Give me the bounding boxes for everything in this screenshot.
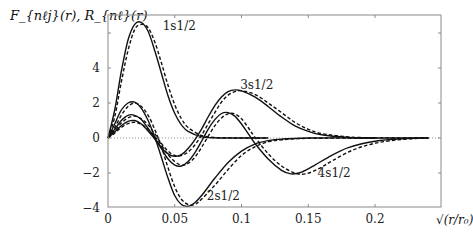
y-tick-label: 4 bbox=[92, 61, 100, 75]
curve-label: 4s1/2 bbox=[318, 166, 351, 180]
line-chart: 00.050.10.150.2−4−2024 1s1/23s1/22s1/24s… bbox=[0, 0, 473, 241]
x-axis-label: √(r/r₀) bbox=[436, 213, 473, 227]
series-4s1-2-dashed bbox=[108, 113, 428, 174]
curves bbox=[108, 22, 428, 207]
x-tick-label: 0.2 bbox=[365, 212, 384, 226]
curve-label: 3s1/2 bbox=[240, 78, 273, 92]
y-tick-label: −4 bbox=[82, 201, 100, 215]
y-tick-label: 0 bbox=[92, 131, 100, 145]
curve-label: 2s1/2 bbox=[207, 189, 240, 203]
x-tick-label: 0.1 bbox=[232, 212, 251, 226]
y-tick-label: −2 bbox=[82, 166, 100, 180]
x-tick-label: 0.05 bbox=[161, 212, 188, 226]
x-tick-label: 0 bbox=[104, 212, 112, 226]
series-3s1-2-dashed bbox=[108, 91, 428, 156]
y-tick-label: 2 bbox=[92, 96, 100, 110]
x-tick-label: 0.15 bbox=[295, 212, 322, 226]
series-3s1-2-solid bbox=[108, 90, 428, 157]
curve-label: 1s1/2 bbox=[163, 19, 196, 33]
curve-labels: 1s1/23s1/22s1/24s1/2 bbox=[163, 19, 351, 204]
